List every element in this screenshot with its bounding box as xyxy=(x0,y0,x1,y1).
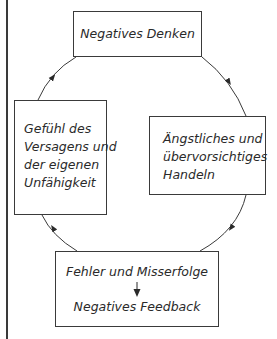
node-label-line: Fehler und Misserfolge xyxy=(56,263,218,281)
arrow-bottom-to-left xyxy=(42,215,77,251)
node-negative-thinking: Negatives Denken xyxy=(73,11,202,57)
down-arrow-icon xyxy=(56,281,218,298)
node-label-line: Versagens und xyxy=(24,138,106,156)
node-label-line: Gefühl des xyxy=(24,120,106,138)
arrow-left-to-top xyxy=(38,57,76,100)
arrow-right-to-bottom xyxy=(200,195,246,251)
node-anxious-behavior: Ängstliches und übervorsichtiges Handeln xyxy=(149,116,266,195)
node-label-line: Ängstliches und xyxy=(163,130,265,148)
node-label-line: übervorsichtiges xyxy=(163,148,265,166)
node-label-line: der eigenen xyxy=(24,156,106,174)
node-failures-feedback: Fehler und Misserfolge Negatives Feedbac… xyxy=(55,251,219,327)
node-label-line: Handeln xyxy=(163,166,265,184)
node-feeling-of-failure: Gefühl des Versagens und der eigenen Unf… xyxy=(14,100,107,215)
node-label-line: Unfähigkeit xyxy=(24,174,106,192)
node-label: Negatives Denken xyxy=(80,25,195,43)
arrow-top-to-right xyxy=(202,57,246,116)
node-label-line: Negatives Feedback xyxy=(56,298,218,316)
